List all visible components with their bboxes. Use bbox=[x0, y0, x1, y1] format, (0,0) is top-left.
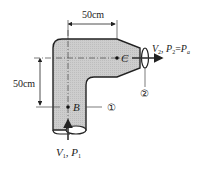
inlet-opening bbox=[66, 126, 86, 134]
outlet-flow-label: V2, P2=Pa bbox=[152, 43, 190, 55]
inlet-flow-label: V1, P1 bbox=[56, 146, 81, 159]
dimension-label-horizontal: 50cm bbox=[82, 9, 104, 20]
point-c bbox=[115, 56, 119, 60]
pipe-elbow-diagram: 50cm 50cm B ① C ② V2, P2=Pa V1, P1 bbox=[0, 0, 203, 169]
dimension-label-vertical: 50cm bbox=[13, 78, 35, 89]
section-1-marker: ① bbox=[107, 102, 116, 113]
point-b bbox=[66, 105, 70, 109]
point-c-label: C bbox=[121, 52, 129, 64]
point-b-label: B bbox=[73, 101, 80, 113]
section-2-marker: ② bbox=[140, 88, 149, 99]
